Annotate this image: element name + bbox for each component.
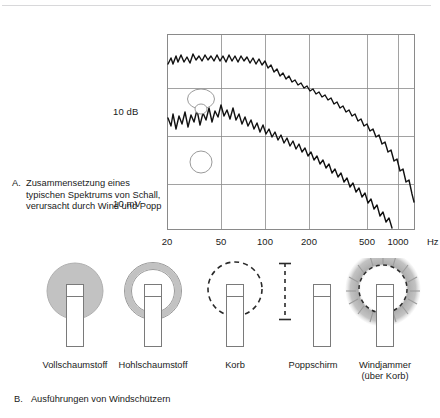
figure-a-caption: A. Zusammensetzung eines typischen Spekt…: [12, 178, 162, 213]
mic-body: [67, 285, 84, 347]
x-tick-500: 500: [359, 236, 375, 247]
mic-body: [227, 285, 244, 347]
pop-screen-shield: [279, 263, 291, 320]
windjammer-icon: [330, 258, 440, 358]
figure-a-caption-mark: A.: [12, 178, 21, 190]
figure-a-caption-text: Zusammensetzung eines typischen Spektrum…: [26, 178, 162, 213]
x-tick-50: 50: [216, 236, 227, 247]
x-tick-1000: 1000: [387, 236, 408, 247]
windscreen-label-windjammer: Windjammer (über Korb): [330, 360, 440, 383]
x-axis-tick-labels: 20 50 100 200 500 1000 Hz: [150, 236, 433, 250]
x-tick-200: 200: [301, 236, 317, 247]
y-axis-label-db: 10 dB: [113, 106, 138, 117]
figure-b-caption-mark: B.: [14, 394, 23, 404]
circle-icon: [190, 151, 212, 173]
figure-b-caption: B. Ausführungen von Windschützern: [14, 394, 170, 404]
figure-b-windscreens: Vollschaumstoff Hohlschaumstoff: [0, 258, 433, 418]
mic-body: [145, 285, 162, 347]
windscreen-item-windjammer: Windjammer (über Korb): [330, 258, 440, 378]
x-tick-100: 100: [257, 236, 273, 247]
figure-a-spectrum: 10 dB 10 mV: [0, 20, 433, 255]
page-top-divider: [2, 5, 431, 6]
mic-body: [314, 285, 331, 347]
x-tick-20: 20: [162, 236, 173, 247]
figure-b-caption-text: Ausführungen von Windschützern: [31, 394, 171, 404]
spectrum-chart: [167, 34, 415, 230]
mic-body: [377, 285, 394, 347]
x-axis-unit: Hz: [427, 236, 439, 247]
plot-frame: [168, 35, 415, 230]
spectrum-chart-svg: [167, 34, 415, 230]
